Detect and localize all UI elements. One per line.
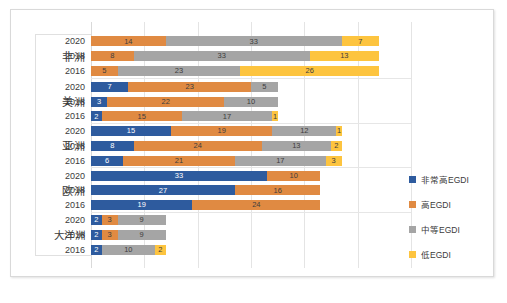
bar-segment-medium[interactable]: 10 [102, 245, 155, 255]
bar-segment-high[interactable]: 8 [91, 51, 134, 61]
bar-groups: 非洲202014337201883313201652326美洲202072352… [91, 34, 411, 256]
bar-value-label: 23 [175, 67, 183, 75]
bar-row: 2016215171 [91, 109, 411, 124]
bar-segment-vhigh[interactable]: 33 [91, 171, 267, 181]
bar-segment-medium[interactable]: 33 [134, 51, 310, 61]
bar-segment-high[interactable]: 23 [128, 82, 251, 92]
bar-value-label: 9 [140, 231, 144, 239]
bar-segment-high[interactable]: 24 [134, 141, 262, 151]
bar-segment-vhigh[interactable]: 19 [91, 200, 192, 210]
bar-segment-high[interactable]: 14 [91, 36, 166, 46]
bar-segment-vhigh[interactable]: 2 [91, 245, 102, 255]
bar-segment-vhigh[interactable]: 2 [91, 111, 102, 121]
bar-segment-medium[interactable]: 10 [224, 97, 277, 107]
stacked-bar[interactable]: 83313 [91, 51, 379, 61]
bar-value-label: 3 [332, 157, 336, 165]
bar-segment-medium[interactable]: 13 [262, 141, 331, 151]
bar-group: 亚洲2020151912120188241322016621173 [91, 123, 411, 167]
bar-row: 2018239 [91, 227, 411, 242]
bar-value-label: 2 [94, 246, 98, 254]
bar-value-label: 13 [292, 142, 300, 150]
legend-item-low[interactable]: 低EGDI [409, 248, 491, 260]
bar-row: 20207235 [91, 79, 411, 94]
legend-item-high[interactable]: 高EGDI [409, 198, 491, 210]
bar-value-label: 5 [262, 83, 266, 91]
stacked-bar[interactable]: 14337 [91, 36, 379, 46]
bar-segment-high[interactable]: 19 [171, 126, 272, 136]
bar-value-label: 19 [217, 127, 225, 135]
bar-segment-low[interactable]: 2 [331, 141, 342, 151]
bar-segment-high[interactable]: 21 [123, 156, 235, 166]
bar-value-label: 15 [137, 113, 145, 121]
bar-segment-vhigh[interactable]: 8 [91, 141, 134, 151]
stacked-bar[interactable]: 239 [91, 215, 166, 225]
stacked-bar[interactable]: 32210 [91, 97, 278, 107]
bar-segment-medium[interactable]: 12 [272, 126, 336, 136]
bar-value-label: 1 [273, 113, 277, 121]
bar-segment-vhigh[interactable]: 3 [91, 97, 107, 107]
bar-value-label: 33 [175, 172, 183, 180]
bar-segment-low[interactable]: 1 [272, 111, 277, 121]
bar-segment-vhigh[interactable]: 6 [91, 156, 123, 166]
bar-value-label: 2 [94, 216, 98, 224]
bar-segment-low[interactable]: 3 [326, 156, 342, 166]
legend-swatch-icon [409, 176, 416, 183]
stacked-bar[interactable]: 621173 [91, 156, 342, 166]
bar-segment-low[interactable]: 2 [155, 245, 166, 255]
stacked-bar[interactable]: 239 [91, 230, 166, 240]
bar-row: 2016621173 [91, 153, 411, 168]
bar-segment-medium[interactable]: 23 [118, 66, 241, 76]
bar-segment-high[interactable]: 3 [102, 215, 118, 225]
bar-row: 2020239 [91, 213, 411, 228]
bar-segment-medium[interactable]: 9 [118, 215, 166, 225]
bar-segment-vhigh[interactable]: 27 [91, 185, 235, 195]
stacked-bar[interactable]: 2716 [91, 185, 320, 195]
bar-value-label: 12 [300, 127, 308, 135]
plot-area: 非洲202014337201883313201652326美洲202072352… [91, 34, 411, 256]
bar-row: 20182716 [91, 183, 411, 198]
legend-swatch-icon [409, 251, 416, 258]
bar-segment-low[interactable]: 13 [310, 51, 379, 61]
stacked-bar[interactable]: 7235 [91, 82, 278, 92]
bar-segment-low[interactable]: 26 [240, 66, 379, 76]
bar-segment-medium[interactable]: 5 [251, 82, 278, 92]
stacked-bar[interactable]: 3310 [91, 171, 320, 181]
bar-value-label: 9 [140, 216, 144, 224]
stacked-bar[interactable]: 1924 [91, 200, 320, 210]
bar-group: 欧洲202033102018271620161924 [91, 167, 411, 211]
bar-segment-low[interactable]: 1 [336, 126, 341, 136]
bar-segment-medium[interactable]: 17 [182, 111, 273, 121]
bar-segment-high[interactable]: 22 [107, 97, 224, 107]
bar-segment-vhigh[interactable]: 15 [91, 126, 171, 136]
bar-row: 201652326 [91, 64, 411, 79]
stacked-bar[interactable]: 2102 [91, 245, 166, 255]
bar-segment-vhigh[interactable]: 2 [91, 215, 102, 225]
bar-row: 20162102 [91, 242, 411, 257]
legend-item-medium[interactable]: 中等EGDI [409, 223, 491, 235]
stacked-bar[interactable]: 824132 [91, 141, 342, 151]
bar-group: 大洋洲2020239201823920162102 [91, 212, 411, 256]
bar-segment-medium[interactable]: 17 [235, 156, 326, 166]
bar-segment-high[interactable]: 5 [91, 66, 118, 76]
legend-label: 中等EGDI [421, 223, 460, 235]
bar-value-label: 3 [108, 216, 112, 224]
legend-item-vhigh[interactable]: 非常高EGDI [409, 173, 491, 185]
bar-segment-high[interactable]: 16 [235, 185, 320, 195]
bar-value-label: 8 [110, 142, 114, 150]
bar-segment-high[interactable]: 15 [102, 111, 182, 121]
bar-segment-low[interactable]: 7 [342, 36, 379, 46]
bar-segment-high[interactable]: 24 [192, 200, 320, 210]
bar-segment-high[interactable]: 10 [267, 171, 320, 181]
bar-group: 非洲202014337201883313201652326 [91, 34, 411, 78]
stacked-bar[interactable]: 1519121 [91, 126, 342, 136]
bar-value-label: 10 [124, 246, 132, 254]
bar-segment-vhigh[interactable]: 2 [91, 230, 102, 240]
stacked-bar[interactable]: 52326 [91, 66, 379, 76]
bar-segment-medium[interactable]: 33 [166, 36, 342, 46]
bar-segment-medium[interactable]: 9 [118, 230, 166, 240]
bar-segment-vhigh[interactable]: 7 [91, 82, 128, 92]
bar-segment-high[interactable]: 3 [102, 230, 118, 240]
stacked-bar[interactable]: 215171 [91, 111, 278, 121]
bar-value-label: 3 [108, 231, 112, 239]
bar-value-label: 14 [124, 38, 132, 46]
